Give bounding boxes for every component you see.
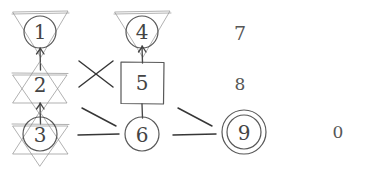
node-3-label: 3 bbox=[34, 123, 47, 147]
downward-triangle-1-top-edge bbox=[12, 13, 69, 14]
horizontal-link-3-to-6[interactable] bbox=[78, 134, 119, 135]
connector-5-to-6 bbox=[142, 104, 143, 118]
node-5-label: 5 bbox=[136, 71, 149, 95]
downward-triangle-4-top-edge bbox=[114, 13, 171, 14]
hand-drawn-diagram: 1 2 3 bbox=[0, 0, 366, 171]
cross-link-left-middle[interactable] bbox=[79, 61, 113, 87]
node-0-label: 0 bbox=[333, 122, 344, 142]
node-8-label: 8 bbox=[235, 74, 246, 94]
node-1-label: 1 bbox=[34, 20, 47, 44]
diagonal-link-left-middle[interactable] bbox=[82, 108, 116, 126]
horizontal-link-6-to-9[interactable] bbox=[173, 134, 216, 135]
node-2-label: 2 bbox=[34, 73, 47, 97]
node-6-label: 6 bbox=[136, 123, 149, 147]
node-9-group[interactable]: 9 bbox=[222, 110, 266, 154]
diagram-canvas: 1 2 3 bbox=[0, 0, 366, 171]
node-7-label: 7 bbox=[234, 22, 246, 44]
node-4-label: 4 bbox=[136, 20, 149, 44]
node-5-group[interactable]: 5 bbox=[121, 62, 164, 104]
diagonal-link-middle-right[interactable] bbox=[178, 108, 212, 126]
connector-2-to-3 bbox=[37, 103, 45, 124]
node-9-label: 9 bbox=[238, 121, 251, 145]
node-6-group[interactable]: 6 bbox=[125, 117, 159, 151]
